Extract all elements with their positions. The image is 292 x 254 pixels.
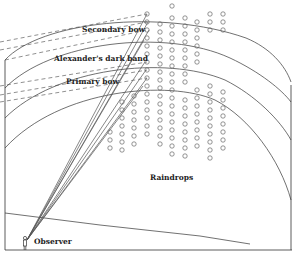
bow-arcs bbox=[5, 22, 291, 200]
raindrop bbox=[170, 56, 174, 60]
raindrop bbox=[120, 132, 124, 136]
raindrop bbox=[208, 92, 212, 96]
raindrop bbox=[221, 20, 225, 24]
raindrop bbox=[208, 148, 212, 152]
raindrop bbox=[221, 28, 225, 32]
raindrop bbox=[208, 84, 212, 88]
raindrop bbox=[221, 130, 225, 134]
raindrop bbox=[170, 80, 174, 84]
raindrop bbox=[158, 30, 162, 34]
raindrop bbox=[158, 54, 162, 58]
raindrop bbox=[195, 104, 199, 108]
raindrop bbox=[145, 100, 149, 104]
raindrop bbox=[170, 32, 174, 36]
raindrop bbox=[145, 108, 149, 112]
raindrop bbox=[208, 20, 212, 24]
raindrop bbox=[158, 94, 162, 98]
raindrop bbox=[195, 128, 199, 132]
raindrop bbox=[170, 144, 174, 148]
raindrop bbox=[132, 110, 136, 114]
raindrop bbox=[221, 138, 225, 142]
raindrop bbox=[195, 52, 199, 56]
raindrop bbox=[221, 90, 225, 94]
raindrop bbox=[145, 92, 149, 96]
raindrop bbox=[170, 4, 174, 8]
raindrop bbox=[195, 112, 199, 116]
raindrop bbox=[170, 104, 174, 108]
raindrop bbox=[145, 84, 149, 88]
raindrop bbox=[183, 56, 187, 60]
raindrop bbox=[158, 78, 162, 82]
raindrop bbox=[170, 88, 174, 92]
raindrop bbox=[183, 48, 187, 52]
raindrop bbox=[183, 138, 187, 142]
raindrop bbox=[208, 140, 212, 144]
raindrop bbox=[195, 136, 199, 140]
raindrop bbox=[170, 128, 174, 132]
raindrop bbox=[183, 122, 187, 126]
raindrop bbox=[195, 96, 199, 100]
raindrop bbox=[183, 154, 187, 158]
raindrop bbox=[208, 156, 212, 160]
raindrop bbox=[183, 40, 187, 44]
raindrop bbox=[183, 72, 187, 76]
raindrop bbox=[170, 96, 174, 100]
raindrop bbox=[170, 48, 174, 52]
raindrop bbox=[183, 16, 187, 20]
raindrop bbox=[145, 28, 149, 32]
raindrop bbox=[145, 36, 149, 40]
raindrop bbox=[158, 62, 162, 66]
raindrop bbox=[195, 88, 199, 92]
raindrop bbox=[183, 130, 187, 134]
raindrop bbox=[132, 126, 136, 130]
raindrop bbox=[195, 120, 199, 124]
raindrop bbox=[221, 106, 225, 110]
raindrop bbox=[195, 60, 199, 64]
raindrop bbox=[195, 144, 199, 148]
raindrop bbox=[170, 24, 174, 28]
raindrop bbox=[108, 146, 112, 150]
raindrop bbox=[158, 102, 162, 106]
raindrop bbox=[132, 118, 136, 122]
raindrop bbox=[132, 142, 136, 146]
raindrop bbox=[183, 80, 187, 84]
raindrop bbox=[145, 132, 149, 136]
raindrop bbox=[221, 122, 225, 126]
raindrop bbox=[221, 146, 225, 150]
raindrop bbox=[158, 118, 162, 122]
raindrop bbox=[208, 12, 212, 16]
raindrop bbox=[195, 28, 199, 32]
raindrop bbox=[208, 116, 212, 120]
raindrop bbox=[195, 20, 199, 24]
raindrop bbox=[145, 124, 149, 128]
raindrop bbox=[120, 116, 124, 120]
raindrop bbox=[208, 124, 212, 128]
raindrop bbox=[183, 106, 187, 110]
raindrop bbox=[120, 148, 124, 152]
raindrop bbox=[158, 70, 162, 74]
raindrop bbox=[120, 124, 124, 128]
label-observer: Observer bbox=[34, 237, 73, 246]
raindrop bbox=[145, 116, 149, 120]
label-dark-band: Alexander's dark band bbox=[53, 54, 149, 63]
raindrop bbox=[158, 38, 162, 42]
raindrop bbox=[221, 98, 225, 102]
frame bbox=[5, 60, 292, 250]
raindrop bbox=[208, 108, 212, 112]
raindrop bbox=[145, 44, 149, 48]
raindrop bbox=[158, 110, 162, 114]
raindrop bbox=[170, 112, 174, 116]
raindrop bbox=[158, 142, 162, 146]
raindrop bbox=[195, 36, 199, 40]
raindrop bbox=[170, 120, 174, 124]
raindrop bbox=[132, 134, 136, 138]
label-primary-bow: Primary bow bbox=[66, 77, 119, 86]
raindrop bbox=[208, 132, 212, 136]
rainbow-diagram: Secondary bow Alexander's dark band Prim… bbox=[0, 0, 292, 254]
raindrop bbox=[158, 134, 162, 138]
label-raindrops: Raindrops bbox=[150, 173, 193, 182]
label-secondary-bow: Secondary bow bbox=[82, 25, 145, 34]
raindrop bbox=[132, 102, 136, 106]
raindrop bbox=[120, 140, 124, 144]
raindrop bbox=[170, 152, 174, 156]
